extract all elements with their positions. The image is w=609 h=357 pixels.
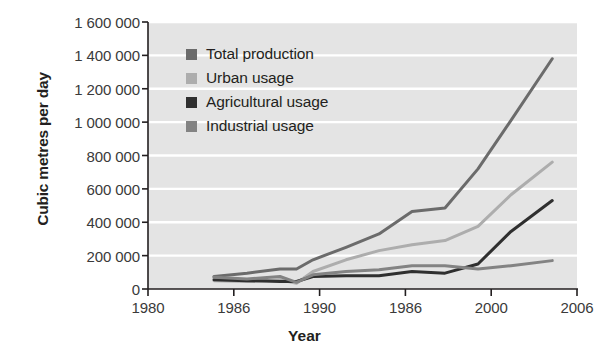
x-axis-title: Year bbox=[0, 327, 609, 345]
legend-swatch-icon bbox=[186, 97, 197, 108]
legend-item: Agricultural usage bbox=[186, 90, 328, 114]
x-tick-label: 1986 bbox=[217, 299, 250, 316]
x-tick-label: 1990 bbox=[303, 299, 336, 316]
legend-swatch-icon bbox=[186, 49, 197, 60]
legend-swatch-icon bbox=[186, 121, 197, 132]
legend-item: Industrial usage bbox=[186, 114, 328, 138]
x-tick-label: 2000 bbox=[475, 299, 508, 316]
legend-swatch-icon bbox=[186, 73, 197, 84]
legend-label: Total production bbox=[206, 45, 314, 63]
legend-label: Industrial usage bbox=[206, 117, 314, 135]
legend-item: Total production bbox=[186, 42, 328, 66]
x-tick-label: 2006 bbox=[561, 299, 594, 316]
legend-label: Agricultural usage bbox=[206, 93, 328, 111]
legend-item: Urban usage bbox=[186, 66, 328, 90]
chart-legend: Total productionUrban usageAgricultural … bbox=[186, 42, 328, 138]
chart-figure: Cubic metres per day 0200 000400 000600 … bbox=[0, 0, 609, 357]
legend-label: Urban usage bbox=[206, 69, 294, 87]
x-tick-label: 1986 bbox=[389, 299, 422, 316]
x-tick-label: 1980 bbox=[132, 299, 165, 316]
